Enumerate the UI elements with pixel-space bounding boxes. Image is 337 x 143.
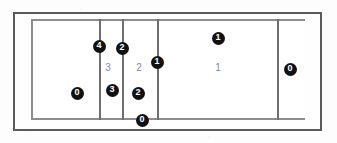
zone-line-1 (99, 19, 101, 120)
marker-filled-0a: 0 (284, 63, 297, 76)
marker-filled-1b: 1 (212, 32, 225, 45)
marker-plain-1: 1 (212, 62, 224, 74)
marker-plain-3: 3 (102, 62, 114, 74)
marker-filled-4: 4 (93, 40, 106, 53)
marker-filled-0c: 0 (136, 114, 149, 127)
court-rectangle (31, 19, 305, 120)
marker-filled-0b: 0 (71, 87, 84, 100)
marker-plain-2: 2 (133, 62, 145, 74)
marker-filled-3: 3 (106, 84, 119, 97)
court-diagram-screenshot: 421100320321 (0, 0, 337, 143)
marker-filled-2a: 2 (116, 42, 129, 55)
marker-filled-2b: 2 (132, 87, 145, 100)
zone-line-3 (157, 19, 159, 120)
marker-filled-1a: 1 (151, 56, 164, 69)
zone-line-2 (122, 19, 124, 120)
zone-line-4 (277, 19, 279, 120)
